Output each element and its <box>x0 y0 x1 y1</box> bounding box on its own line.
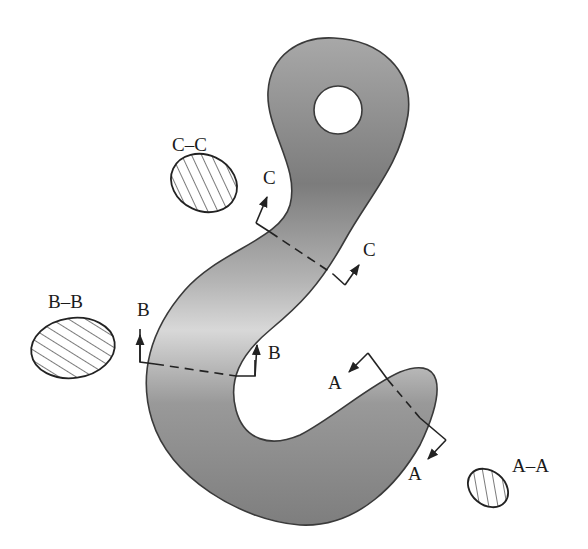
hook-body <box>146 38 437 525</box>
cross-section-a-a <box>460 461 516 515</box>
label-b-cut-right: B <box>268 343 281 362</box>
hook-drawing <box>0 0 588 549</box>
label-a-a-view: A–A <box>512 456 549 475</box>
label-c-cut-top: C <box>263 168 276 187</box>
label-c-cut-right: C <box>363 240 376 259</box>
label-b-b-view: B–B <box>48 292 83 311</box>
label-a-cut-bottom: A <box>408 464 422 483</box>
cross-section-b-b <box>27 312 119 383</box>
label-b-cut-left: B <box>137 300 150 319</box>
cross-section-c-c <box>161 143 246 222</box>
label-a-cut-top: A <box>328 373 342 392</box>
hook-diagram: C–C C C B–B B B A A A–A <box>0 0 588 549</box>
hook-eye-hole <box>314 86 362 134</box>
label-c-c-view: C–C <box>172 135 207 154</box>
